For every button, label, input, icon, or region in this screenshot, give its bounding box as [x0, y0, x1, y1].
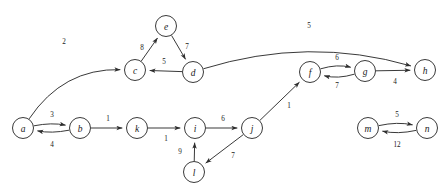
nodes-layer: abcdefghijklmn — [13, 16, 438, 183]
edge-weight-b-a: 4 — [50, 141, 54, 149]
graph-diagram: 2341167918755674512 abcdefghijklmn — [0, 0, 446, 194]
edges-layer — [29, 35, 416, 163]
edge-g-to-f — [324, 74, 354, 77]
edge-c-to-e — [141, 38, 157, 61]
graph-canvas: 2341167918755674512 abcdefghijklmn — [0, 0, 446, 194]
node-e[interactable]: e — [156, 16, 177, 37]
edge-weight-l-i: 9 — [178, 148, 182, 156]
node-n[interactable]: n — [417, 118, 438, 139]
node-circle-f[interactable] — [300, 62, 321, 83]
node-j[interactable]: j — [242, 118, 263, 139]
node-i[interactable]: i — [185, 118, 206, 139]
edge-b-to-a — [37, 130, 69, 132]
edge-weight-e-d: 7 — [185, 43, 189, 51]
edge-weight-d-h: 5 — [307, 22, 311, 30]
edge-d-to-c — [150, 71, 182, 72]
edge-weight-d-c: 5 — [162, 58, 166, 66]
edge-a-to-c — [29, 70, 120, 119]
edge-weight-b-k: 1 — [106, 115, 110, 123]
edge-weight-f-g: 6 — [335, 54, 339, 62]
edge-g-to-h — [376, 70, 410, 71]
edge-a-to-b — [34, 124, 66, 126]
node-circle-j[interactable] — [242, 118, 263, 139]
node-m[interactable]: m — [358, 118, 379, 139]
edge-weight-a-c: 2 — [62, 38, 66, 46]
edge-j-to-l — [206, 135, 244, 163]
edge-weight-j-f: 1 — [287, 102, 291, 110]
node-circle-n[interactable] — [417, 118, 438, 139]
node-f[interactable]: f — [300, 62, 321, 83]
node-a[interactable]: a — [13, 118, 34, 139]
edge-m-to-n — [379, 123, 413, 125]
edge-weight-n-m: 12 — [393, 141, 401, 149]
edge-f-to-g — [321, 66, 351, 69]
node-k[interactable]: k — [127, 118, 148, 139]
node-circle-k[interactable] — [127, 118, 148, 139]
node-d[interactable]: d — [183, 62, 204, 83]
node-circle-a[interactable] — [13, 118, 34, 139]
edge-weight-a-b: 3 — [50, 111, 54, 119]
node-circle-b[interactable] — [70, 118, 91, 139]
edge-n-to-m — [382, 130, 416, 132]
node-circle-e[interactable] — [156, 16, 177, 37]
edge-e-to-d — [172, 35, 186, 59]
edge-weight-i-j: 6 — [221, 115, 225, 123]
node-circle-i[interactable] — [185, 118, 206, 139]
node-g[interactable]: g — [355, 61, 376, 82]
edge-weight-k-i: 1 — [164, 135, 168, 143]
edge-weight-c-e: 8 — [140, 44, 144, 52]
node-circle-h[interactable] — [415, 60, 436, 81]
node-l[interactable]: l — [184, 162, 205, 183]
edge-weight-j-l: 7 — [231, 152, 235, 160]
node-h[interactable]: h — [415, 60, 436, 81]
node-circle-d[interactable] — [183, 62, 204, 83]
node-circle-g[interactable] — [355, 61, 376, 82]
edge-weight-g-f: 7 — [335, 82, 339, 90]
edge-weight-g-h: 4 — [393, 78, 397, 86]
node-circle-l[interactable] — [184, 162, 205, 183]
edge-weight-m-n: 5 — [395, 111, 399, 119]
node-circle-m[interactable] — [358, 118, 379, 139]
node-c[interactable]: c — [125, 60, 146, 81]
node-b[interactable]: b — [70, 118, 91, 139]
edge-weights-layer: 2341167918755674512 — [50, 22, 401, 160]
node-circle-c[interactable] — [125, 60, 146, 81]
edge-j-to-f — [260, 82, 300, 120]
